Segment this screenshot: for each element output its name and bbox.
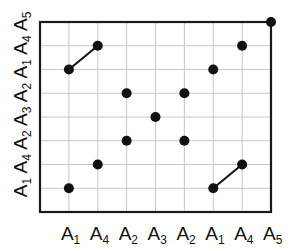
svg-text:A4: A4 (10, 35, 34, 55)
svg-text:A4: A4 (10, 154, 34, 174)
x-axis-label: A4 (90, 223, 110, 247)
segment (213, 165, 242, 189)
dot (93, 41, 103, 51)
dot (93, 160, 103, 170)
x-axis-label: A2 (176, 223, 196, 247)
y-axis-label: A2 (10, 83, 34, 103)
x-axis-label: A4 (234, 223, 254, 247)
x-axis-label: A1 (61, 223, 81, 247)
dot (208, 65, 218, 75)
dot (179, 88, 189, 98)
svg-text:A1: A1 (10, 178, 34, 198)
x-axis-label: A1 (205, 223, 225, 247)
x-axis-label: A2 (119, 223, 139, 247)
dot (266, 17, 276, 27)
y-axis-label: A4 (10, 35, 34, 55)
y-axis-label: A5 (10, 11, 34, 31)
x-axis-label: A3 (148, 223, 168, 247)
svg-text:A5: A5 (10, 11, 34, 31)
x-axis-labels: A1A4A2A3A2A1A4A5 (61, 223, 283, 247)
segment (69, 46, 98, 70)
y-axis-labels: A1A4A2A3A2A1A4A5 (10, 11, 34, 197)
svg-text:A2: A2 (10, 83, 34, 103)
svg-text:A2: A2 (10, 130, 34, 150)
dot (151, 112, 161, 122)
y-axis-label: A1 (10, 59, 34, 79)
y-axis-label: A3 (10, 106, 34, 126)
svg-text:A1: A1 (10, 59, 34, 79)
dot (64, 183, 74, 193)
dot (64, 65, 74, 75)
dot (237, 41, 247, 51)
dot (122, 136, 132, 146)
y-axis-label: A1 (10, 178, 34, 198)
dot (122, 88, 132, 98)
dot (237, 160, 247, 170)
x-axis-label: A5 (263, 223, 283, 247)
y-axis-label: A2 (10, 130, 34, 150)
dot (179, 136, 189, 146)
y-axis-label: A4 (10, 154, 34, 174)
dot-matrix-diagram: A1A4A2A3A2A1A4A5 A1A4A2A3A2A1A4A5 (0, 0, 297, 251)
svg-text:A3: A3 (10, 106, 34, 126)
dots (64, 17, 276, 193)
dot (208, 183, 218, 193)
